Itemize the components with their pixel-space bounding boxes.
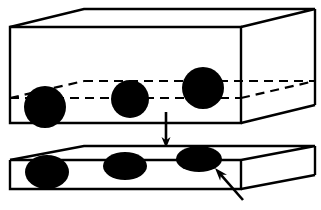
sphere-1 (24, 86, 66, 128)
sphere-3 (182, 67, 224, 109)
figure-root (0, 0, 321, 210)
block-reduction-diagram (0, 0, 321, 210)
flattened-inclusion-2 (103, 152, 147, 180)
sphere-2 (111, 80, 149, 118)
lower-thin-slab (10, 146, 315, 189)
upper-thick-block (10, 9, 315, 128)
upper-block-right-face (241, 9, 315, 123)
